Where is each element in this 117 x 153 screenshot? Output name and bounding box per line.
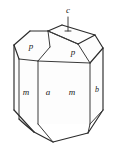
label-m-left: m — [23, 87, 30, 97]
label-a: a — [46, 87, 51, 97]
edge-bottom-front-right — [53, 133, 88, 142]
crystal-diagram: c p p m a m b — [0, 0, 117, 153]
label-c: c — [66, 5, 70, 15]
edge-bottom-a-corner — [38, 124, 53, 142]
label-b: b — [95, 85, 99, 94]
label-m-right: m — [69, 87, 76, 97]
edge-bottom-front-left — [34, 132, 53, 142]
label-p-right: p — [70, 47, 76, 57]
crystal-figure: c p p m a m b — [0, 0, 117, 153]
label-p-left: p — [28, 41, 34, 51]
